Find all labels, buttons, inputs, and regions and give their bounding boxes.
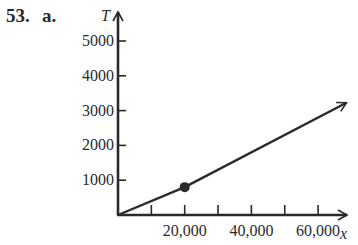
y-tick-label: 4000 xyxy=(82,67,114,84)
y-ticks: 10002000300040005000 xyxy=(82,32,126,188)
x-tick-label: 20,000 xyxy=(163,222,207,239)
y-tick-label: 5000 xyxy=(82,32,114,49)
x-tick-label: 60,000 xyxy=(296,222,340,239)
series-line xyxy=(118,103,346,215)
y-tick-label: 2000 xyxy=(82,136,114,153)
x-ticks: 20,00040,00060,000 xyxy=(151,205,340,239)
problem-number: 53. xyxy=(6,5,30,26)
y-axis-label: T xyxy=(101,7,111,24)
y-tick-label: 1000 xyxy=(82,171,114,188)
x-tick-label: 40,000 xyxy=(229,222,273,239)
data-series xyxy=(118,103,346,215)
x-axis-label: x xyxy=(339,225,347,242)
piecewise-linear-chart: 53. a. T x 10002000300040005000 20,00040… xyxy=(0,0,358,245)
breakpoint-dot xyxy=(180,182,190,192)
y-tick-label: 3000 xyxy=(82,102,114,119)
problem-part: a. xyxy=(42,5,56,26)
